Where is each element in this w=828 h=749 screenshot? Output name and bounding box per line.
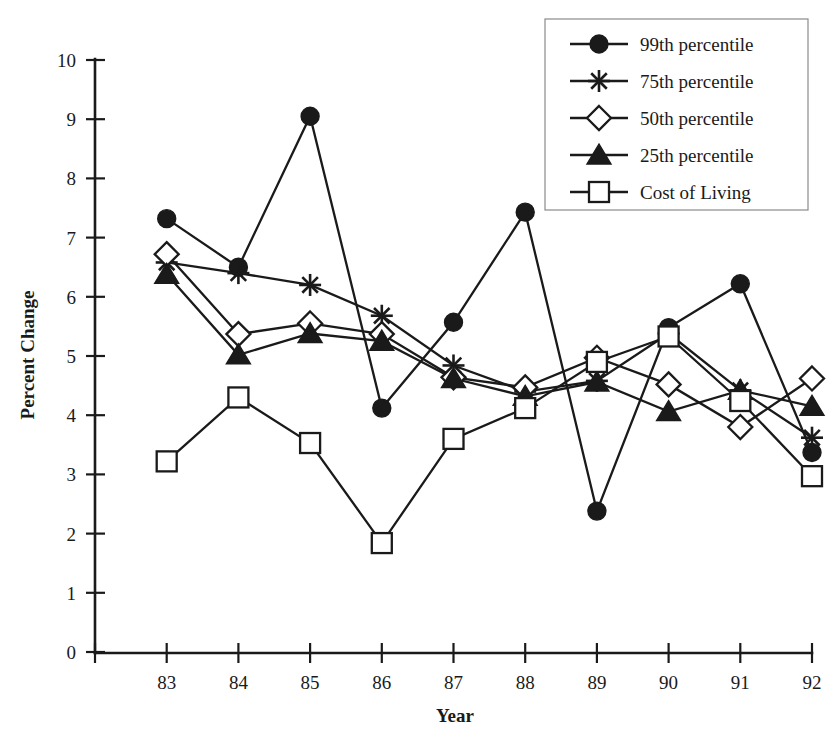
marker-square bbox=[589, 182, 609, 202]
marker-square bbox=[515, 398, 535, 418]
x-axis-title: Year bbox=[436, 705, 475, 726]
data-point bbox=[155, 263, 179, 283]
y-tick-label: 1 bbox=[67, 583, 77, 604]
marker-square bbox=[157, 451, 177, 471]
y-axis: 012345678910 Percent Change bbox=[17, 50, 105, 663]
data-point bbox=[728, 415, 752, 439]
x-tick-label: 85 bbox=[301, 672, 320, 693]
marker-circle bbox=[590, 35, 608, 53]
series-line-4 bbox=[167, 274, 812, 411]
marker-square bbox=[300, 433, 320, 453]
data-point bbox=[445, 313, 463, 331]
marker-circle bbox=[158, 210, 176, 228]
chart-legend: 99th percentile75th percentile50th perce… bbox=[545, 19, 808, 210]
y-tick-label: 8 bbox=[67, 168, 77, 189]
data-point bbox=[301, 107, 319, 125]
y-axis-title: Percent Change bbox=[17, 291, 38, 420]
data-point bbox=[444, 429, 464, 449]
y-tick-label: 2 bbox=[67, 524, 77, 545]
legend-item[interactable]: 25th percentile bbox=[570, 144, 753, 166]
marker-square bbox=[802, 466, 822, 486]
marker-diamond bbox=[657, 372, 681, 396]
marker-square bbox=[372, 533, 392, 553]
data-point bbox=[657, 372, 681, 396]
x-axis-tick-labels: 83848586878889909192 bbox=[157, 672, 821, 693]
marker-circle bbox=[445, 313, 463, 331]
data-point bbox=[802, 466, 822, 486]
y-tick-label: 6 bbox=[67, 287, 77, 308]
y-tick-label: 4 bbox=[67, 405, 77, 426]
data-point bbox=[801, 427, 823, 449]
x-axis: 83848586878889909192 Year bbox=[95, 643, 822, 726]
marker-triangle bbox=[657, 401, 681, 421]
line-chart: 012345678910 Percent Change 838485868788… bbox=[0, 0, 828, 749]
x-tick-label: 84 bbox=[229, 672, 249, 693]
y-tick-label: 5 bbox=[67, 346, 77, 367]
data-point bbox=[659, 326, 679, 346]
legend-item[interactable]: Cost of Living bbox=[570, 182, 751, 203]
y-tick-label: 10 bbox=[57, 50, 76, 71]
data-point bbox=[730, 391, 750, 411]
data-point bbox=[158, 210, 176, 228]
data-point bbox=[300, 433, 320, 453]
y-axis-tick-labels: 012345678910 bbox=[57, 50, 77, 663]
data-point bbox=[588, 502, 606, 520]
data-point bbox=[515, 398, 535, 418]
chart-container: 012345678910 Percent Change 838485868788… bbox=[0, 0, 828, 749]
y-tick-label: 7 bbox=[67, 228, 77, 249]
marker-circle bbox=[516, 203, 534, 221]
data-point bbox=[299, 274, 321, 296]
y-tick-label: 0 bbox=[67, 642, 77, 663]
data-point bbox=[731, 275, 749, 293]
data-point bbox=[372, 533, 392, 553]
legend-item[interactable]: 99th percentile bbox=[570, 34, 753, 55]
legend-marker bbox=[588, 70, 610, 92]
data-point bbox=[657, 401, 681, 421]
x-tick-label: 83 bbox=[157, 672, 176, 693]
data-point bbox=[800, 366, 824, 390]
x-tick-label: 86 bbox=[372, 672, 391, 693]
x-tick-label: 90 bbox=[659, 672, 678, 693]
data-point bbox=[227, 262, 249, 284]
marker-diamond bbox=[800, 366, 824, 390]
y-tick-label: 9 bbox=[67, 109, 77, 130]
data-point bbox=[516, 203, 534, 221]
series-line-5 bbox=[167, 336, 812, 543]
legend-label: 25th percentile bbox=[640, 145, 753, 166]
marker-square bbox=[228, 387, 248, 407]
x-tick-label: 88 bbox=[516, 672, 535, 693]
marker-square bbox=[659, 326, 679, 346]
legend-label: Cost of Living bbox=[640, 182, 751, 203]
data-point bbox=[587, 352, 607, 372]
legend-item[interactable]: 50th percentile bbox=[570, 106, 753, 130]
legend-label: 50th percentile bbox=[640, 108, 753, 129]
x-tick-label: 91 bbox=[731, 672, 750, 693]
marker-diamond bbox=[728, 415, 752, 439]
legend-label: 99th percentile bbox=[640, 34, 753, 55]
x-tick-label: 92 bbox=[803, 672, 822, 693]
x-tick-label: 87 bbox=[444, 672, 463, 693]
marker-circle bbox=[731, 275, 749, 293]
series-line-3 bbox=[167, 254, 812, 427]
marker-square bbox=[730, 391, 750, 411]
data-point bbox=[157, 451, 177, 471]
x-tick-label: 89 bbox=[587, 672, 606, 693]
y-tick-label: 3 bbox=[67, 464, 77, 485]
marker-circle bbox=[588, 502, 606, 520]
marker-square bbox=[444, 429, 464, 449]
legend-label: 75th percentile bbox=[640, 71, 753, 92]
legend-marker bbox=[590, 35, 608, 53]
legend-marker bbox=[589, 182, 609, 202]
data-point bbox=[228, 387, 248, 407]
marker-circle bbox=[373, 399, 391, 417]
marker-triangle bbox=[155, 263, 179, 283]
data-point bbox=[373, 399, 391, 417]
marker-circle bbox=[301, 107, 319, 125]
marker-square bbox=[587, 352, 607, 372]
